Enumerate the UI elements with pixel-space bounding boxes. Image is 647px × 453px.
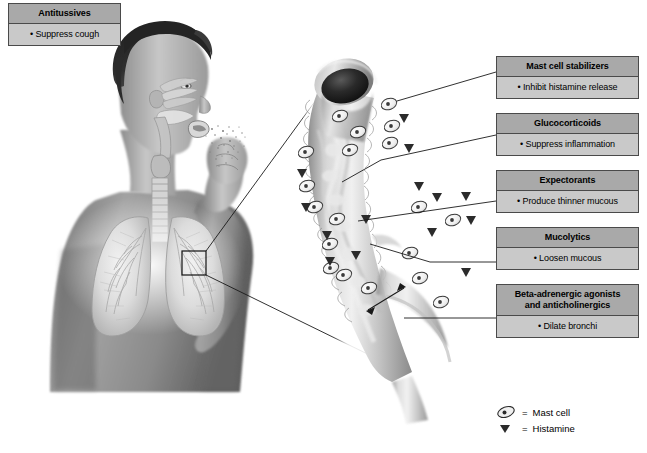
coughing-person-illustration xyxy=(50,21,253,392)
histamine xyxy=(427,228,437,237)
mast-cell xyxy=(432,294,451,310)
label-box-mast-cell-stabilizers-body: • Inhibit histamine release xyxy=(497,77,638,98)
label-box-expectorants-text: Produce thinner mucous xyxy=(523,196,618,206)
legend: = Mast cell = Histamine xyxy=(493,404,643,436)
histamine xyxy=(432,193,442,202)
bullet-glyph: • xyxy=(517,82,520,92)
label-box-beta-adrenergic-agonists-text: Dilate bronchi xyxy=(543,321,597,331)
bullet-glyph: • xyxy=(534,253,537,263)
histamine-icon xyxy=(493,421,519,435)
histamine xyxy=(399,114,409,123)
label-box-beta-adrenergic-agonists[interactable]: Beta-adrenergic agonists and anticholine… xyxy=(496,284,639,338)
legend-label-mast-cell: Mast cell xyxy=(533,407,570,418)
label-box-antitussives-header: Antitussives xyxy=(9,4,120,24)
legend-item-histamine: = Histamine xyxy=(493,420,643,436)
histamine xyxy=(466,216,476,225)
label-box-expectorants-body: • Produce thinner mucous xyxy=(497,191,638,212)
label-box-expectorants-header: Expectorants xyxy=(497,171,638,191)
label-box-antitussives[interactable]: Antitussives • Suppress cough xyxy=(8,3,121,46)
label-box-antitussives-text: Suppress cough xyxy=(35,29,99,39)
bullet-glyph: • xyxy=(517,196,520,206)
legend-equals-sign: = xyxy=(522,423,528,434)
mast-cell xyxy=(380,96,399,112)
bullet-glyph: • xyxy=(30,29,33,39)
label-box-glucocorticoids-body: • Suppress inflammation xyxy=(497,134,638,155)
legend-label-histamine: Histamine xyxy=(533,423,575,434)
label-box-mast-cell-stabilizers-text: Inhibit histamine release xyxy=(523,82,618,92)
mast-cell xyxy=(383,118,402,134)
label-box-mucolytics-text: Loosen mucous xyxy=(539,253,601,263)
legend-item-mast-cell: = Mast cell xyxy=(493,404,643,420)
mast-cell xyxy=(411,270,430,286)
histamine xyxy=(461,268,471,277)
label-box-expectorants[interactable]: Expectorants • Produce thinner mucous xyxy=(496,170,639,213)
label-box-glucocorticoids-header: Glucocorticoids xyxy=(497,114,638,134)
histamine xyxy=(297,169,307,178)
label-box-beta-adrenergic-agonists-header: Beta-adrenergic agonists and anticholine… xyxy=(497,285,638,316)
header-line-1: Beta-adrenergic agonists xyxy=(500,289,635,300)
label-box-mucolytics[interactable]: Mucolytics • Loosen mucous xyxy=(496,227,639,270)
label-box-glucocorticoids-text: Suppress inflammation xyxy=(526,139,615,149)
label-box-mucolytics-body: • Loosen mucous xyxy=(497,248,638,269)
mast-cell-icon xyxy=(493,405,519,419)
bullet-glyph: • xyxy=(520,139,523,149)
mast-cell xyxy=(401,245,420,261)
label-box-mast-cell-stabilizers[interactable]: Mast cell stabilizers • Inhibit histamin… xyxy=(496,56,639,99)
bullet-glyph: • xyxy=(538,321,541,331)
label-box-mucolytics-header: Mucolytics xyxy=(497,228,638,248)
histamine xyxy=(414,182,424,191)
label-box-antitussives-body: • Suppress cough xyxy=(9,24,120,45)
mast-cell xyxy=(444,212,463,228)
label-box-glucocorticoids[interactable]: Glucocorticoids • Suppress inflammation xyxy=(496,113,639,156)
header-line-2: and anticholinergics xyxy=(500,300,635,311)
mast-cell xyxy=(381,135,400,151)
histamine xyxy=(461,192,471,201)
legend-equals-sign: = xyxy=(522,407,528,418)
diagram-canvas: Antitussives • Suppress cough Mast cell … xyxy=(0,0,647,453)
magnified-bronchus xyxy=(304,52,451,424)
histamine xyxy=(404,144,414,153)
label-box-beta-adrenergic-agonists-body: • Dilate bronchi xyxy=(497,316,638,337)
label-box-mast-cell-stabilizers-header: Mast cell stabilizers xyxy=(497,57,638,77)
